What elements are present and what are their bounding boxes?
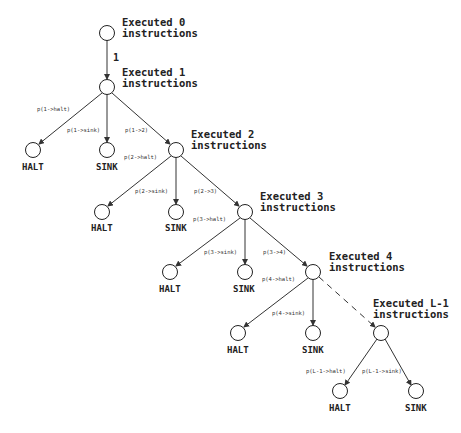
sink-node-4 (306, 326, 321, 341)
prob-1-2: p(1->2) (125, 127, 148, 134)
edge-1-2 (112, 93, 170, 144)
prob-3-sink: p(3->sink) (204, 249, 237, 256)
prob-2-3: p(2->3) (194, 188, 217, 195)
halt-node-L-1 (333, 384, 348, 399)
level-4-subtitle: instructions (329, 261, 405, 273)
sink-node-2 (169, 205, 184, 220)
prob-3-4: p(3->4) (263, 249, 286, 256)
edge-L-halt (345, 339, 377, 385)
state-node-0 (100, 26, 115, 41)
level-3-subtitle: instructions (260, 201, 336, 213)
level-0-subtitle: instructions (122, 27, 198, 39)
sink-label-2: SINK (165, 223, 187, 233)
state-node-L-1 (374, 326, 389, 341)
halt-label-4: HALT (227, 345, 249, 355)
nodes (26, 26, 424, 399)
sink-label-4: SINK (302, 345, 324, 355)
prob-1-halt: p(1->halt) (37, 106, 70, 113)
prob-2-sink: p(2->sink) (135, 188, 168, 195)
prob-1-sink: p(1->sink) (67, 127, 100, 134)
halt-node-3 (163, 265, 178, 280)
edge-L-sink (385, 339, 411, 385)
sink-label-1: SINK (96, 162, 118, 172)
edge-1-halt (39, 93, 102, 144)
sink-label-L-1: SINK (405, 403, 427, 413)
sink-node-3 (238, 265, 253, 280)
level-2-subtitle: instructions (191, 139, 267, 151)
prob-L-1-halt: p(L-1->halt) (306, 368, 346, 375)
sink-node-L-1 (409, 384, 424, 399)
state-node-3 (238, 205, 253, 220)
halt-node-1 (26, 143, 41, 158)
sink-node-1 (100, 143, 115, 158)
edge-3-4 (250, 218, 307, 266)
edge-0-1-label: 1 (113, 52, 119, 63)
halt-node-2 (95, 205, 110, 220)
level-L-1-subtitle: instructions (373, 308, 449, 320)
sink-label-3: SINK (233, 284, 255, 294)
state-node-2 (169, 143, 184, 158)
halt-label-L-1: HALT (329, 403, 351, 413)
prob-4-halt: p(4->halt) (262, 276, 295, 283)
state-node-4 (306, 265, 321, 280)
prob-4-sink: p(4->sink) (272, 310, 305, 317)
halt-label-1: HALT (22, 162, 44, 172)
edge-2-3 (181, 156, 239, 206)
state-node-1 (100, 80, 115, 95)
prob-L-1-sink: p(L-1->sink) (362, 368, 402, 375)
terminal-labels: HALT SINK HALT SINK HALT SINK HALT SINK … (22, 162, 427, 413)
prob-3-halt: p(3->halt) (193, 216, 226, 223)
halt-label-3: HALT (159, 284, 181, 294)
halt-label-2: HALT (91, 223, 113, 233)
level-1-subtitle: instructions (122, 77, 198, 89)
halt-node-4 (231, 326, 246, 341)
probability-tree-diagram: Executed 0 instructions Executed 1 instr… (0, 0, 461, 433)
edge-4-L-dashed (319, 277, 375, 327)
prob-2-halt: p(2->halt) (124, 154, 157, 161)
